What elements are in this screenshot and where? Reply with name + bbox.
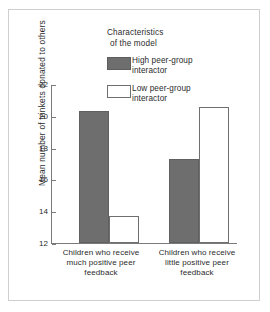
bar [79, 111, 109, 243]
legend-label-high-line2: interactor [132, 66, 167, 75]
y-tick-mark [52, 117, 56, 118]
plot-area: 121416182022 [51, 85, 237, 244]
legend-label-high-line1: High peer-group [132, 56, 193, 65]
y-axis-spine [51, 85, 52, 244]
y-tick-mark [52, 180, 56, 181]
legend-title-line1: Characteristics [107, 28, 257, 39]
x-axis-category-label-line: feedback [180, 268, 213, 277]
legend-label-high: High peer-group interactor [132, 56, 193, 75]
bar [169, 159, 199, 243]
y-tick-label: 12 [39, 240, 48, 248]
bar [109, 216, 139, 243]
x-axis-category-label-line: Children who receive [159, 248, 236, 257]
y-tick-label: 18 [39, 145, 48, 153]
x-axis-category-label-line: much positive peer [67, 258, 136, 267]
x-axis-category-label-0: Children who receivemuch positive peerfe… [53, 248, 149, 278]
y-tick-mark [52, 149, 56, 150]
y-tick-mark [52, 212, 56, 213]
legend-swatch-filled-icon [107, 57, 131, 70]
chart-figure: Characteristics of the model High peer-g… [8, 9, 260, 301]
y-tick-label: 14 [39, 208, 48, 216]
x-axis-category-label-line: Children who receive [63, 248, 140, 257]
x-axis-category-label-line: feedback [84, 268, 117, 277]
y-tick-mark [52, 85, 56, 86]
x-axis-category-label-line: little positive peer [165, 258, 229, 267]
legend-item-high-peer-group-interactor: High peer-group interactor [107, 56, 257, 75]
bar [199, 107, 229, 243]
x-axis-category-label-1: Children who receivelittle positive peer… [149, 248, 245, 278]
y-axis-label: Mean number of trinkets donated to other… [37, 18, 47, 188]
y-tick-label: 22 [39, 81, 48, 89]
y-tick-label: 20 [39, 113, 48, 121]
legend-title-line2: of the model [107, 39, 257, 50]
y-tick-label: 16 [39, 176, 48, 184]
y-tick-mark [52, 244, 56, 245]
x-axis-spine [51, 243, 237, 244]
